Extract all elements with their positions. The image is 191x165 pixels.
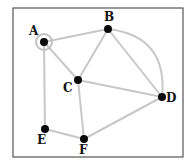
label-a: A: [28, 24, 39, 38]
graph-diagram: A B C D E F: [0, 0, 191, 165]
label-f: F: [79, 143, 88, 157]
label-e: E: [37, 133, 46, 147]
node-c[interactable]: [74, 76, 82, 84]
node-f[interactable]: [80, 135, 88, 143]
node-a[interactable]: [40, 38, 48, 46]
edge-a-e: [44, 42, 45, 129]
label-b: B: [104, 10, 114, 24]
label-d: D: [166, 91, 176, 105]
node-e[interactable]: [41, 125, 49, 133]
node-b[interactable]: [104, 25, 112, 33]
label-c: C: [63, 81, 73, 95]
node-d[interactable]: [158, 93, 166, 101]
